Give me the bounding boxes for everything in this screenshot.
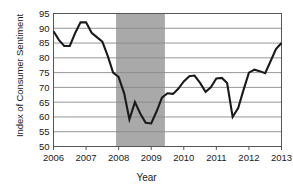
svg-text:85: 85 xyxy=(39,37,50,48)
x-axis-ticks: 20062007200820092010201120122013 xyxy=(43,147,292,164)
svg-text:2009: 2009 xyxy=(141,152,162,163)
y-axis-ticks: 50556065707580859095 xyxy=(39,8,50,152)
gridlines xyxy=(54,14,282,132)
consumer-sentiment-chart: Index of Consumer Sentiment 505560657075… xyxy=(0,0,293,194)
svg-text:80: 80 xyxy=(39,52,50,63)
svg-text:2006: 2006 xyxy=(43,152,64,163)
svg-text:2007: 2007 xyxy=(76,152,97,163)
svg-text:2013: 2013 xyxy=(271,152,292,163)
svg-text:95: 95 xyxy=(39,8,50,19)
recession-shading xyxy=(116,14,165,147)
svg-text:90: 90 xyxy=(39,23,50,34)
svg-text:50: 50 xyxy=(39,141,50,152)
plot-area: 50556065707580859095 2006200720082009201… xyxy=(0,0,293,194)
svg-text:2011: 2011 xyxy=(206,152,226,163)
svg-text:55: 55 xyxy=(39,126,50,137)
x-axis-label: Year xyxy=(0,172,293,183)
svg-text:60: 60 xyxy=(39,111,50,122)
svg-text:2008: 2008 xyxy=(108,152,129,163)
svg-text:75: 75 xyxy=(39,67,50,78)
svg-text:2012: 2012 xyxy=(238,152,259,163)
svg-text:2010: 2010 xyxy=(173,152,194,163)
svg-text:65: 65 xyxy=(39,97,50,108)
svg-text:70: 70 xyxy=(39,82,50,93)
